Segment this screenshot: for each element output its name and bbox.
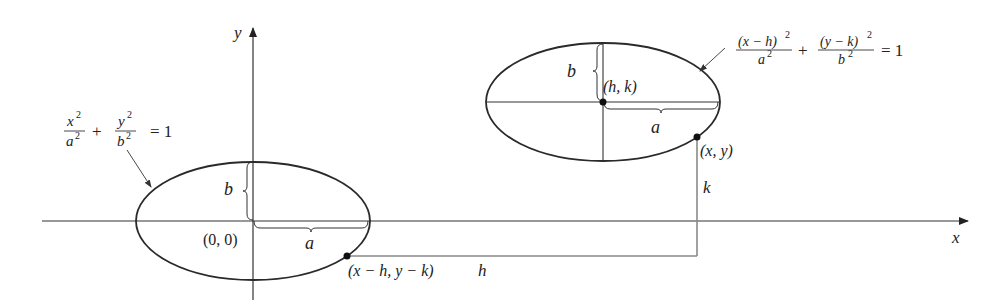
standard-ellipse-equation: x 2 a 2 + y 2 b 2 = 1 [64,109,172,149]
svg-text:= 1: = 1 [881,41,903,60]
translated-point-label: (x − h, y − k) [348,262,434,280]
left-equation-pointer [127,150,151,187]
svg-text:+: + [92,122,102,141]
semi-major-brace [254,221,368,232]
right-a-label: a [651,117,660,137]
svg-text:2: 2 [76,109,81,120]
svg-text:y: y [116,113,125,129]
svg-text:2: 2 [848,48,853,59]
svg-text:x: x [66,113,74,129]
svg-text:a: a [758,52,765,67]
y-axis-label: y [232,23,242,42]
left-a-label: a [305,233,314,253]
translated-point [344,253,351,260]
svg-text:= 1: = 1 [150,122,172,141]
ellipse-diagram: y x (0, 0) b a (x − h, y − k) x 2 a 2 + … [0,0,996,300]
svg-text:2: 2 [126,130,131,141]
right-b-label: b [567,61,576,81]
translated-ellipse-equation: (x − h) 2 a 2 + (y − k) 2 b 2 = 1 [736,29,903,67]
svg-text:b: b [117,133,125,149]
semi-minor-brace [243,162,253,220]
x-axis-label: x [951,228,960,247]
ellipse-point-label: (x, y) [700,142,733,160]
vertical-offset-label: k [703,178,711,197]
translated-ellipse [486,43,720,161]
semi-minor-brace-right [593,44,603,101]
center-point [600,99,607,106]
svg-text:2: 2 [127,109,132,120]
svg-text:2: 2 [785,29,790,40]
ellipse-point [694,134,701,141]
translation-guides [347,137,697,256]
svg-text:2: 2 [767,48,772,59]
semi-major-brace-right [604,102,718,113]
svg-text:b: b [838,52,845,67]
right-equation-pointer [700,48,725,71]
horizontal-offset-label: h [478,261,487,280]
origin-label: (0, 0) [203,231,238,249]
svg-text:2: 2 [867,29,872,40]
svg-text:a: a [66,133,74,149]
svg-text:+: + [798,41,808,60]
center-label: (h, k) [603,78,637,96]
left-b-label: b [224,179,233,199]
svg-text:2: 2 [75,130,80,141]
